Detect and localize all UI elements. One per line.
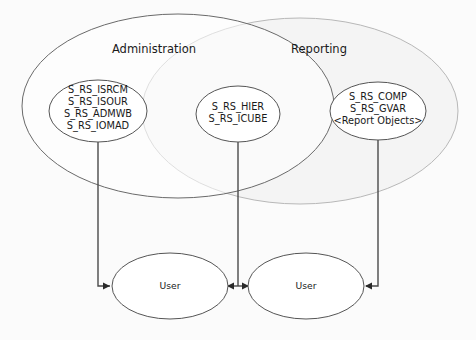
node-admin-objects-line-4: S_RS_IOMAD [67,120,129,132]
node-reporting-objects-line-2: S_RS_GVAR [350,103,406,115]
node-user-left[interactable]: User [112,253,228,319]
administration-set-label: Administration [112,42,196,56]
node-shared-objects-line-2: S_RS_ICUBE [209,113,268,125]
node-admin-objects-line-1: S_RS_ISRCM [68,84,128,96]
node-user-left-label: User [160,280,181,291]
node-admin-objects[interactable]: S_RS_ISRCM S_RS_ISOUR S_RS_ADMWB S_RS_IO… [49,80,147,142]
node-reporting-objects[interactable]: S_RS_COMP S_RS_GVAR <Report Objects> [330,82,426,140]
node-admin-objects-line-3: S_RS_ADMWB [64,108,132,120]
node-user-right-label: User [296,280,317,291]
node-shared-objects-line-1: S_RS_HIER [212,101,264,113]
node-admin-objects-line-2: S_RS_ISOUR [68,96,128,108]
node-reporting-objects-line-1: S_RS_COMP [349,91,407,103]
node-user-right[interactable]: User [248,253,364,319]
node-shared-objects[interactable]: S_RS_HIER S_RS_ICUBE [196,86,280,142]
venn-diagram: Administration Reporting S_RS_ISRCM S_RS… [0,0,476,340]
reporting-set-label: Reporting [291,42,347,56]
diagram-canvas: Administration Reporting S_RS_ISRCM S_RS… [0,0,476,340]
node-reporting-objects-line-3: <Report Objects> [333,115,422,126]
